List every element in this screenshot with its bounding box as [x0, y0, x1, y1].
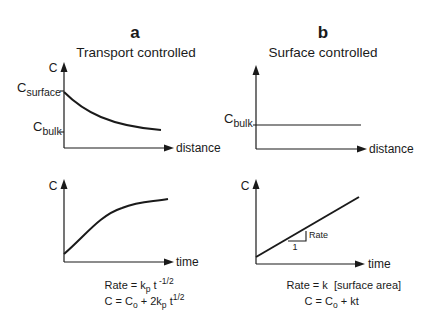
panel-a: a Transport controlled C distance Csurfa… [17, 23, 221, 310]
x-axis-label: time [368, 257, 391, 271]
y-axis-label: C [49, 61, 58, 75]
y-axis-arrow-icon [61, 179, 68, 189]
concentration-growth-curve [64, 199, 168, 254]
panel-b-title: Surface controlled [269, 45, 378, 60]
linear-growth-line [256, 197, 359, 257]
x-axis-arrow-icon [355, 261, 365, 268]
x-axis-label: time [176, 255, 199, 269]
label-c-bulk: Cbulk [33, 119, 62, 137]
label-c-bulk: Cbulk [224, 111, 253, 129]
concentration-decay-curve [64, 92, 161, 130]
figure: a Transport controlled C distance Csurfa… [0, 0, 423, 327]
panel-b-top-plot: distance Cbulk [224, 65, 414, 156]
y-axis-label: C [241, 179, 250, 193]
label-c-surface: Csurface [17, 80, 61, 98]
y-axis-arrow-icon [61, 62, 68, 72]
x-axis-arrow-icon [357, 146, 367, 153]
x-axis-arrow-icon [164, 259, 174, 266]
formula-rate: Rate = kp t -1/2 [77, 274, 195, 294]
panel-a-formulas: Rate = kp t -1/2 C = Co + 2kp t1/2 [77, 274, 206, 310]
y-axis-arrow-icon [253, 65, 260, 75]
x-axis-label: distance [176, 141, 221, 155]
slope-rise-label: Rate [309, 230, 328, 240]
panel-a-letter: a [130, 23, 140, 42]
slope-run-label: 1 [292, 242, 297, 252]
y-axis-label: C [49, 179, 58, 193]
panel-a-bottom-plot: C time [49, 179, 199, 269]
panel-a-top-plot: C distance Csurface Cbulk [17, 61, 221, 155]
panel-b-letter: b [318, 23, 328, 42]
panel-a-title: Transport controlled [76, 45, 196, 60]
panel-b: b Surface controlled distance Cbulk C ti… [224, 23, 423, 310]
x-axis-arrow-icon [164, 145, 174, 152]
panel-b-bottom-plot: C time Rate 1 [241, 179, 391, 271]
formula-concentration: C = Co + 2kp t1/2 [77, 290, 206, 310]
formula-concentration: C = Co + kt [277, 295, 380, 310]
x-axis-label: distance [369, 142, 414, 156]
panel-b-formulas: Rate = k [surface area] C = Co + kt [259, 279, 423, 310]
y-axis-arrow-icon [253, 179, 260, 189]
formula-rate: Rate = k [surface area] [259, 279, 423, 291]
